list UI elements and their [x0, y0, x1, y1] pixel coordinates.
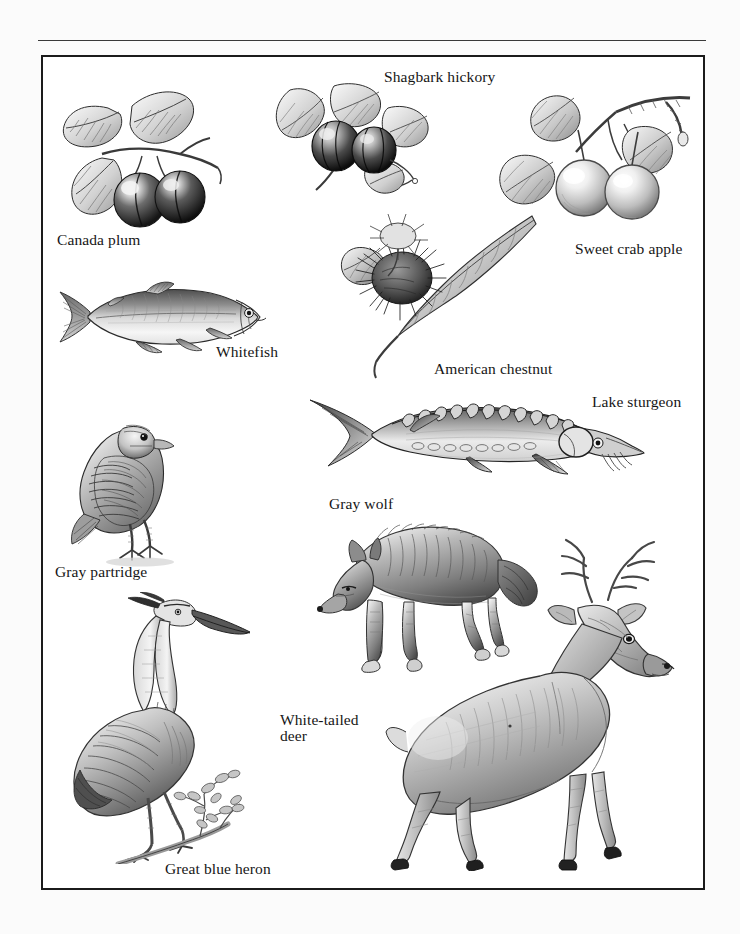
caption-line-2: deer: [280, 727, 307, 744]
caption-lake-sturgeon: Lake sturgeon: [592, 394, 681, 410]
caption-great-blue-heron: Great blue heron: [165, 861, 271, 877]
caption-shagbark-hickory: Shagbark hickory: [384, 69, 495, 85]
figure-great-blue-heron: [60, 592, 296, 864]
caption-gray-wolf: Gray wolf: [329, 496, 393, 512]
figure-white-tailed-deer: [356, 526, 696, 871]
illustration-plate-page: Canada plum Shagbark hickory Sweet crab …: [0, 0, 740, 934]
caption-whitefish: Whitefish: [216, 344, 278, 360]
figure-shagbark-hickory: [272, 80, 434, 222]
figure-canada-plum: [58, 72, 230, 234]
top-rule-divider: [38, 40, 706, 41]
caption-white-tailed-deer: White-taileddeer: [280, 712, 359, 744]
figure-american-chestnut: [336, 212, 546, 380]
caption-gray-partridge: Gray partridge: [55, 564, 147, 580]
figure-gray-partridge: [70, 402, 198, 570]
caption-american-chestnut: American chestnut: [434, 361, 552, 377]
caption-line-1: White-tailed: [280, 711, 359, 728]
caption-canada-plum: Canada plum: [57, 232, 140, 248]
caption-sweet-crab-apple: Sweet crab apple: [575, 241, 682, 257]
